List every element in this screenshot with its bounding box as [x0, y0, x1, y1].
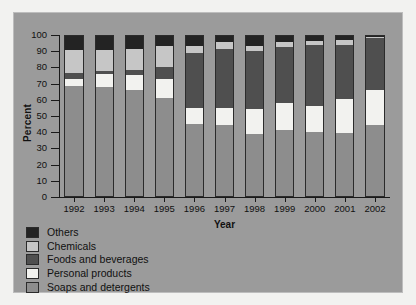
bar-segment	[156, 46, 173, 68]
chart-legend: OthersChemicalsFoods and beveragesPerson…	[26, 226, 276, 294]
bar-segment	[186, 108, 203, 124]
legend-item: Foods and beverages	[26, 253, 276, 267]
legend-item: Soaps and detergents	[26, 280, 276, 294]
x-tick-label: 1997	[208, 203, 242, 214]
x-tick-label: 2000	[298, 203, 332, 214]
y-tick-label: 60	[11, 94, 47, 105]
bar-segment	[336, 133, 353, 196]
legend-label: Chemicals	[47, 241, 96, 252]
x-tick-label: 1999	[268, 203, 302, 214]
bar-segment	[246, 134, 263, 196]
y-tick-label: 10	[11, 175, 47, 186]
bar-segment	[156, 98, 173, 196]
bar-segment	[126, 36, 143, 49]
stacked-bar	[125, 35, 144, 197]
bar-segment	[65, 36, 82, 50]
y-tick	[51, 148, 59, 149]
x-tick-label: 1993	[87, 203, 121, 214]
y-tick	[51, 84, 59, 85]
x-tick	[194, 197, 195, 202]
y-tick-label: 100	[11, 29, 47, 40]
y-tick	[51, 181, 59, 182]
bar-segment	[216, 125, 233, 196]
y-tick	[51, 35, 59, 36]
bar-segment	[366, 125, 383, 196]
y-tick-label: 20	[11, 159, 47, 170]
y-axis-line	[59, 35, 60, 197]
bar-segment	[336, 99, 353, 133]
stacked-bar	[155, 35, 174, 197]
bar-segment	[246, 36, 263, 46]
bar-segment	[306, 106, 323, 132]
bar-segment	[246, 109, 263, 135]
x-tick-label: 1994	[117, 203, 151, 214]
stacked-bar	[365, 35, 384, 197]
bar-segment	[306, 132, 323, 196]
bar-segment	[96, 74, 113, 87]
bar-segment	[366, 38, 383, 90]
legend-item: Others	[26, 226, 276, 240]
bar-segment	[156, 79, 173, 98]
bar-segment	[186, 36, 203, 46]
stacked-bar	[275, 35, 294, 197]
y-tick-label: 40	[11, 126, 47, 137]
x-tick	[255, 197, 256, 202]
bar-segment	[126, 75, 143, 90]
bar-segment	[246, 51, 263, 109]
bar-segment	[276, 47, 293, 103]
legend-swatch	[26, 254, 39, 265]
y-tick-label: 30	[11, 142, 47, 153]
bar-segment	[186, 124, 203, 196]
y-tick-label: 90	[11, 45, 47, 56]
x-tick	[375, 197, 376, 202]
stacked-bar	[215, 35, 234, 197]
y-tick-label: 70	[11, 78, 47, 89]
bar-segment	[366, 90, 383, 125]
x-tick-label: 1998	[238, 203, 272, 214]
y-tick	[51, 100, 59, 101]
bar-segment	[216, 108, 233, 125]
y-tick	[51, 132, 59, 133]
bar-segment	[156, 67, 173, 79]
x-tick-label: 2001	[328, 203, 362, 214]
x-tick	[74, 197, 75, 202]
legend-swatch	[26, 268, 39, 279]
x-tick	[315, 197, 316, 202]
legend-label: Soaps and detergents	[47, 282, 150, 293]
legend-swatch	[26, 282, 39, 293]
stacked-bar	[305, 35, 324, 197]
bar-segment	[276, 103, 293, 130]
x-tick-label: 1992	[57, 203, 91, 214]
bar-segment	[126, 90, 143, 196]
legend-label: Personal products	[47, 268, 132, 279]
bar-segment	[96, 36, 113, 50]
x-tick	[164, 197, 165, 202]
legend-label: Others	[47, 227, 79, 238]
x-tick	[134, 197, 135, 202]
bar-segment	[96, 87, 113, 196]
bar-segment	[336, 45, 353, 99]
x-tick	[285, 197, 286, 202]
x-tick	[104, 197, 105, 202]
stacked-bar	[95, 35, 114, 197]
bar-segment	[156, 36, 173, 46]
y-tick-label: 80	[11, 61, 47, 72]
x-tick	[225, 197, 226, 202]
y-tick	[51, 197, 59, 198]
y-tick	[51, 165, 59, 166]
legend-item: Chemicals	[26, 240, 276, 254]
bar-segment	[126, 49, 143, 71]
bar-segment	[65, 86, 82, 196]
y-tick-label: 0	[11, 191, 47, 202]
chart-figure: Percent 0102030405060708090100 199219931…	[13, 12, 403, 293]
bar-segment	[276, 130, 293, 196]
x-tick-label: 2002	[358, 203, 392, 214]
y-tick	[51, 116, 59, 117]
stacked-bar	[64, 35, 83, 197]
stacked-bar	[245, 35, 264, 197]
bar-segment	[306, 45, 323, 106]
y-tick	[51, 51, 59, 52]
bar-segment	[96, 50, 113, 71]
y-tick	[51, 67, 59, 68]
y-tick-label: 50	[11, 110, 47, 121]
